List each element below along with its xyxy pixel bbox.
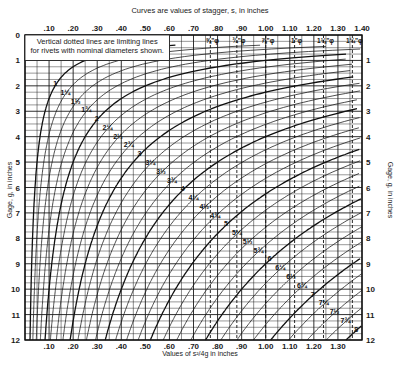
y-tick-label-right: 10 — [366, 285, 375, 294]
y-tick-label-left: 0 — [16, 31, 21, 40]
y-tick-label-left: 2 — [16, 82, 21, 91]
x-tick-label-top: 1.30 — [330, 24, 346, 33]
y-tick-label-left: 12 — [11, 336, 20, 345]
curve-label: 5 — [224, 220, 228, 227]
x-tick-label-bottom: .20 — [68, 342, 80, 351]
y-tick-label-left: 5 — [16, 158, 21, 167]
curve-label: 2½ — [113, 133, 123, 140]
y-tick-label-left: 4 — [16, 133, 21, 142]
y-tick-label-right: 12 — [366, 336, 375, 345]
y-tick-label-right: 2 — [366, 82, 371, 91]
y-tick-label-right: 4 — [366, 133, 371, 142]
y-tick-label-right: 5 — [366, 158, 371, 167]
stagger-curve — [70, 77, 353, 340]
curve-label: 5¾ — [254, 247, 265, 254]
curve-label: 4¼ — [189, 194, 200, 201]
y-tick-label-left: 3 — [16, 107, 21, 116]
x-tick-label-bottom: 1.10 — [282, 342, 298, 351]
x-tick-label-top: .30 — [92, 24, 104, 33]
rivet-limit-label: ⅝"φ — [206, 37, 220, 45]
curve-label: 1¾ — [81, 106, 92, 113]
curve-label: 6½ — [286, 273, 296, 280]
curve-label: 7 — [311, 291, 315, 298]
x-tick-label-bottom: 1.20 — [306, 342, 322, 351]
x-axis-label: Values of s²/4g in inches — [162, 350, 238, 358]
curve-label: 7¼ — [319, 299, 330, 306]
rivet-limit-label: ¾"φ — [232, 37, 246, 45]
y-tick-label-left: 11 — [12, 311, 21, 320]
note-line-2: for rivets with nominal diameters shown. — [31, 46, 164, 55]
rivet-limit-label: 1"φ — [291, 37, 303, 45]
x-tick-label-bottom: .50 — [140, 342, 152, 351]
curve-label: 8 — [354, 326, 358, 333]
stagger-curve — [36, 46, 326, 340]
curve-label: 3¼ — [145, 159, 156, 166]
y-axis-label-right: Gage, g, in inches — [386, 162, 394, 219]
curve-label: 1½ — [71, 98, 81, 105]
y-tick-label-left: 8 — [16, 234, 21, 243]
chart-title: Curves are values of stagger, s, in inch… — [131, 6, 268, 15]
y-tick-label-left: 7 — [16, 209, 21, 218]
x-tick-label-bottom: .40 — [116, 342, 128, 351]
y-tick-label-right: 9 — [366, 260, 371, 269]
curve-label: 6¼ — [275, 264, 286, 271]
curve-label: 4¾ — [210, 212, 221, 219]
curve-label: 5½ — [243, 238, 253, 245]
y-tick-label-left: 6 — [16, 184, 21, 193]
note-box: Vertical dotted lines are limiting lines… — [25, 35, 169, 60]
curve-label: 3 — [138, 150, 142, 157]
y-tick-label-right: 6 — [366, 184, 371, 193]
x-tick-label-top: .70 — [188, 24, 200, 33]
x-tick-label-top: 1.20 — [306, 24, 322, 33]
x-tick-label-top: .20 — [68, 24, 80, 33]
curve-label: 4 — [181, 185, 185, 192]
x-tick-label-top: 1.10 — [282, 24, 298, 33]
curve-label: 1 — [53, 80, 57, 87]
x-tick-label-bottom: 1.00 — [258, 342, 274, 351]
x-tick-label-top: .60 — [164, 24, 176, 33]
x-tick-label-bottom: .30 — [92, 342, 104, 351]
y-tick-label-right: 1 — [366, 56, 371, 65]
y-tick-label-right: 7 — [366, 209, 371, 218]
curve-label: 4½ — [199, 203, 209, 210]
curve-label: 7¾ — [341, 317, 352, 324]
curve-label: 5¼ — [232, 229, 243, 236]
rivet-limit-label: ⅞"φ — [261, 37, 275, 45]
curve-label: 7½ — [330, 308, 340, 315]
curve-label: 3½ — [156, 168, 166, 175]
y-tick-label-right: 3 — [366, 107, 371, 116]
y-tick-label-left: 10 — [11, 285, 20, 294]
y-tick-label-right: 11 — [366, 311, 375, 320]
y-tick-label-right: 8 — [366, 234, 371, 243]
x-tick-label-top: .50 — [140, 24, 152, 33]
x-tick-label-top: .90 — [236, 24, 248, 33]
y-tick-label-left: 9 — [16, 260, 21, 269]
x-tick-label-top: .80 — [212, 24, 224, 33]
stagger-gage-chart: ⅝"φ¾"φ⅞"φ1"φ1⅛"φ1¼"φ Vertical dotted lin… — [0, 0, 395, 365]
curve-label: 1¼ — [60, 89, 71, 96]
curve-label: 2 — [95, 115, 99, 122]
stagger-curve — [191, 186, 360, 340]
y-axis-label-left: Gage, g, in inches — [6, 161, 14, 218]
curve-label: 3¾ — [167, 177, 178, 184]
curve-label: 6¾ — [297, 282, 308, 289]
curve-label: 2¾ — [124, 141, 135, 148]
x-tick-label-top: .10 — [44, 24, 56, 33]
note-line-1: Vertical dotted lines are limiting lines — [37, 37, 158, 46]
rivet-limit-label: 1⅛"φ — [317, 37, 334, 45]
stagger-curve — [30, 45, 175, 340]
curve-label: 2¼ — [102, 124, 113, 131]
x-tick-label-top: .40 — [116, 24, 128, 33]
y-tick-label-left: 1 — [16, 56, 21, 65]
x-tick-label-bottom: 1.30 — [330, 342, 346, 351]
x-tick-label-top: 1.00 — [258, 24, 274, 33]
curve-label: 6 — [267, 255, 271, 262]
rivet-limit-label: 1¼"φ — [346, 37, 363, 45]
x-tick-label-top: 1.40 — [354, 24, 370, 33]
x-tick-label-bottom: .10 — [44, 342, 56, 351]
